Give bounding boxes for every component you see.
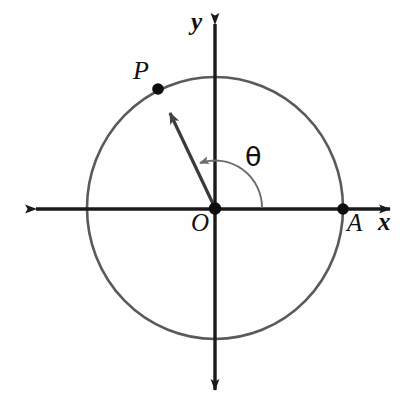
angle-theta-label: θ bbox=[245, 143, 262, 170]
origin-label: O bbox=[191, 210, 209, 235]
circle-angle-figure: y x O P A θ bbox=[0, 0, 418, 414]
point-a-label: A bbox=[347, 210, 362, 235]
y-axis-label: y bbox=[191, 9, 202, 34]
point-p-label: P bbox=[133, 58, 149, 84]
point-p-marker bbox=[152, 83, 164, 95]
origin-point-marker bbox=[209, 202, 221, 214]
x-axis-label: x bbox=[378, 209, 391, 234]
figure-canvas bbox=[0, 0, 418, 414]
